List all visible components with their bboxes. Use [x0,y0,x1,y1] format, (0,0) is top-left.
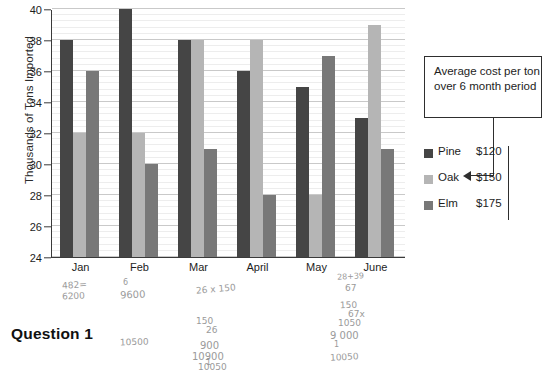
x-tick-label: Mar [189,261,208,273]
y-tick-mark [44,195,51,196]
bar-oak-jan [73,133,86,257]
legend-swatch-oak [424,175,433,184]
y-tick-mark [44,102,51,103]
y-tick-mark [44,164,51,165]
bar-group [237,10,276,257]
bar-group [119,10,158,257]
legend-row-pine: Pine$120 [424,142,544,168]
bar-group [60,10,99,257]
handwritten-note: 10500 [120,337,149,348]
y-tick-label: 30 [30,159,42,171]
legend-price: $150 [476,171,502,183]
handwritten-note: 1050 [338,318,361,328]
handwritten-note: 6200 [62,290,85,301]
bar-oak-feb [132,133,145,257]
handwritten-note: 67 [345,283,356,293]
y-tick-label: 28 [30,190,42,202]
legend-row-oak: Oak$150 [424,168,544,194]
y-tick-label: 34 [30,97,42,109]
bar-groups [52,10,405,257]
legend-swatch-elm [424,201,433,210]
legend-label: Oak [438,171,459,183]
y-tick-mark [44,133,51,134]
bar-group [355,10,394,257]
bar-pine-april [237,71,250,257]
y-tick-label: 40 [30,4,42,16]
question-label: Question 1 [11,325,93,343]
legend: Pine$120Oak$150Elm$175 [424,142,544,220]
handwritten-note: 482= [62,279,87,291]
y-tick-mark [44,9,51,10]
bar-oak-april [250,40,263,257]
legend-label: Pine [438,145,461,157]
bar-oak-june [368,25,381,258]
bar-elm-april [263,195,276,257]
bar-elm-mar [204,149,217,258]
bar-pine-feb [119,9,132,257]
legend-price-bracket [508,146,509,220]
bar-group [178,10,217,257]
handwritten-note: 10050 [330,351,359,362]
y-tick-label: 36 [30,66,42,78]
legend-price: $120 [476,145,502,157]
y-tick-label: 26 [30,221,42,233]
y-axis-ticks: 242628303234363840 [0,10,51,258]
handwritten-note: 28+39 [337,271,364,281]
bar-elm-feb [145,164,158,257]
bar-group [296,10,335,257]
bar-oak-may [309,195,322,257]
x-tick-label: Feb [130,261,149,273]
bar-pine-mar [178,40,191,257]
handwritten-note: 1 [334,340,339,349]
handwritten-note: 26 x 150 [196,282,236,295]
bar-pine-june [355,118,368,258]
y-tick-mark [44,226,51,227]
y-tick-label: 38 [30,35,42,47]
bar-elm-jan [86,71,99,257]
handwritten-note: 9600 [120,289,146,301]
x-tick-label: April [246,261,268,273]
bar-elm-may [322,56,335,258]
gridline [52,8,405,9]
legend-label: Elm [438,197,458,209]
legend-price: $175 [476,197,502,209]
bar-oak-mar [191,40,204,257]
handwritten-note: 10050 [198,362,227,370]
plot-area [51,10,405,258]
bar-pine-may [296,87,309,258]
handwritten-note: 6 [123,278,128,287]
chart-page: Thousands of Tons Imported 2426283032343… [0,0,556,370]
handwritten-note: 900 [200,340,219,351]
y-tick-mark [44,257,51,258]
handwritten-note: 26 [206,325,217,335]
y-tick-label: 24 [30,252,42,264]
legend-swatch-pine [424,149,433,158]
bar-pine-jan [60,40,73,257]
callout-box: Average cost per ton over 6 month period [424,56,542,118]
bar-elm-june [381,149,394,258]
y-tick-mark [44,40,51,41]
x-tick-label: Jan [72,261,90,273]
x-tick-label: June [364,261,388,273]
y-tick-mark [44,71,51,72]
y-tick-label: 32 [30,128,42,140]
legend-row-elm: Elm$175 [424,194,544,220]
x-tick-label: May [306,261,327,273]
